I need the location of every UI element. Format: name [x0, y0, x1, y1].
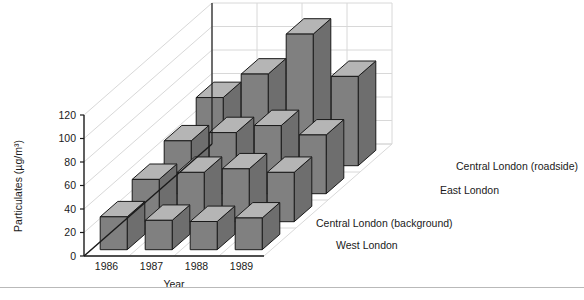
- series-label-central-london-roadside-: Central London (roadside): [456, 160, 578, 172]
- y-tick-label-60: 60: [64, 179, 76, 191]
- three-d-bar-chart: 020406080100120Particulates (µg/m³)19861…: [0, 0, 584, 300]
- x-tick-label-1989: 1989: [230, 260, 254, 272]
- y-tick-label-20: 20: [64, 226, 76, 238]
- bottom-divider: [0, 287, 584, 288]
- x-tick-label-1986: 1986: [95, 260, 119, 272]
- x-axis-title: Year: [163, 278, 185, 290]
- y-tick-label-80: 80: [64, 156, 76, 168]
- bars-layer: [100, 19, 376, 250]
- y-tick-label-40: 40: [64, 203, 76, 215]
- y-tick-label-120: 120: [58, 109, 76, 121]
- series-label-west-london: West London: [336, 239, 398, 251]
- x-tick-label-1988: 1988: [185, 260, 209, 272]
- chart-container: 020406080100120Particulates (µg/m³)19861…: [0, 0, 584, 300]
- series-label-central-london-background-: Central London (background): [316, 217, 453, 229]
- series-label-east-london: East London: [440, 184, 499, 196]
- y-axis-title: Particulates (µg/m³): [12, 140, 24, 232]
- y-tick-label-100: 100: [58, 132, 76, 144]
- y-tick-label-0: 0: [70, 250, 76, 262]
- x-tick-label-1987: 1987: [140, 260, 164, 272]
